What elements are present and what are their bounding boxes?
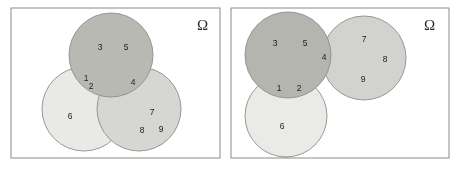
region-label-2: 2 [297,83,302,93]
region-label-7: 7 [150,107,155,117]
right-venn-panel: Ω 3 5 4 7 8 9 1 2 6 [231,8,449,158]
circle-top[interactable] [69,13,153,97]
region-label-3: 3 [98,42,103,52]
region-label-5: 5 [303,38,308,48]
region-label-9: 9 [361,74,366,84]
omega-symbol-right: Ω [424,17,435,33]
region-label-6: 6 [68,111,73,121]
region-label-8: 8 [140,125,145,135]
region-label-4: 4 [322,52,327,62]
region-label-9: 9 [159,124,164,134]
omega-symbol-left: Ω [197,17,208,33]
region-label-2: 2 [89,81,94,91]
region-label-1: 1 [277,83,282,93]
region-label-7: 7 [362,34,367,44]
region-label-4: 4 [131,77,136,87]
region-label-3: 3 [273,38,278,48]
region-label-5: 5 [124,42,129,52]
left-venn-panel: Ω 3 5 1 2 4 6 7 8 9 [11,8,220,158]
circle-top-left[interactable] [245,12,331,98]
venn-diagram-figure: Ω 3 5 1 2 4 6 7 8 9 Ω 3 5 4 7 8 9 1 [0,0,460,170]
circle-top-right[interactable] [322,16,406,100]
region-label-6: 6 [280,121,285,131]
region-label-8: 8 [383,54,388,64]
